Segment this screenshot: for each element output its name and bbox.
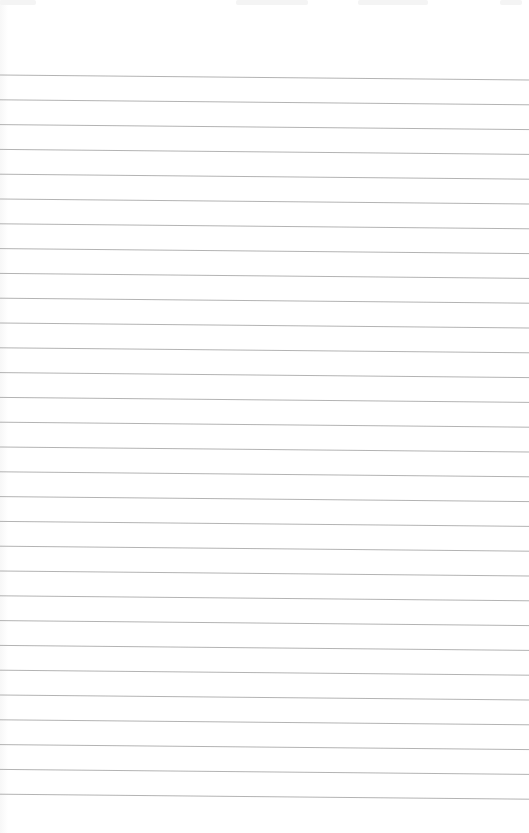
ruled-line <box>0 174 529 179</box>
ruled-line <box>0 373 529 378</box>
ruled-line <box>0 323 529 328</box>
ruled-line <box>0 149 529 154</box>
ruled-line <box>0 298 529 303</box>
ruled-line <box>0 125 529 130</box>
ruled-line <box>0 645 529 650</box>
ruled-lines <box>0 0 529 833</box>
ruled-line <box>0 100 529 105</box>
ruled-line <box>0 546 529 551</box>
ruled-line <box>0 695 529 700</box>
ruled-line <box>0 273 529 278</box>
ruled-paper-page <box>0 0 529 833</box>
ruled-line <box>0 224 529 229</box>
ruled-line <box>0 571 529 576</box>
ruled-line <box>0 621 529 626</box>
ruled-line <box>0 720 529 725</box>
ruled-line <box>0 769 529 774</box>
ruled-line <box>0 472 529 477</box>
ruled-line <box>0 794 529 799</box>
ruled-line <box>0 596 529 601</box>
ruled-line <box>0 249 529 254</box>
ruled-line <box>0 75 529 80</box>
ruled-line <box>0 447 529 452</box>
ruled-line <box>0 199 529 204</box>
ruled-line <box>0 397 529 402</box>
ruled-line <box>0 348 529 353</box>
ruled-line <box>0 497 529 502</box>
ruled-line <box>0 670 529 675</box>
ruled-line <box>0 422 529 427</box>
ruled-line <box>0 745 529 750</box>
ruled-line <box>0 521 529 526</box>
